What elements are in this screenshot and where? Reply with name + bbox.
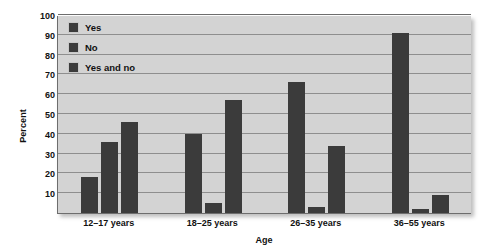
bar xyxy=(101,142,118,213)
bar xyxy=(121,122,138,213)
y-axis-tick-label: 50 xyxy=(31,111,55,120)
y-axis-tick-label: 10 xyxy=(31,190,55,199)
bar xyxy=(432,195,449,213)
y-axis-tick-label: 100 xyxy=(31,12,55,21)
x-axis-tick-label: 26–35 years xyxy=(290,219,341,228)
x-axis-tick-label: 18–25 years xyxy=(187,219,238,228)
bar xyxy=(412,209,429,213)
bar xyxy=(288,82,305,213)
bar xyxy=(392,33,409,213)
legend-label: Yes and no xyxy=(85,63,135,73)
legend-swatch-icon xyxy=(68,62,79,73)
y-axis-tick-labels: 102030405060708090100 xyxy=(31,16,55,214)
bar xyxy=(328,146,345,213)
legend-item: Yes and no xyxy=(68,61,135,74)
legend-label: No xyxy=(85,43,98,53)
x-axis-tick-label: 36–55 years xyxy=(394,219,445,228)
y-axis-tick-label: 60 xyxy=(31,91,55,100)
y-axis-tick-label: 40 xyxy=(31,130,55,139)
bar-group xyxy=(185,16,242,213)
bar-group xyxy=(392,16,449,213)
y-axis-tick-label: 80 xyxy=(31,51,55,60)
plot-area: YesNoYes and no xyxy=(57,16,471,214)
chart-legend: YesNoYes and no xyxy=(68,21,135,74)
legend-item: No xyxy=(68,41,135,54)
y-axis-tick-label: 70 xyxy=(31,71,55,80)
legend-swatch-icon xyxy=(68,42,79,53)
y-axis-tick-label: 20 xyxy=(31,170,55,179)
x-axis-tick-label: 12–17 years xyxy=(83,219,134,228)
bar xyxy=(81,177,98,213)
y-axis-tick-label: 30 xyxy=(31,150,55,159)
bar xyxy=(308,207,325,213)
legend-label: Yes xyxy=(85,23,101,33)
legend-swatch-icon xyxy=(68,22,79,33)
legend-item: Yes xyxy=(68,21,135,34)
bar xyxy=(225,100,242,213)
bar-group xyxy=(288,16,345,213)
bar-chart-figure: Percent 102030405060708090100 YesNoYes a… xyxy=(0,0,484,251)
x-axis-title: Age xyxy=(57,236,471,245)
y-axis-title: Percent xyxy=(19,96,28,156)
bar xyxy=(205,203,222,213)
gridline xyxy=(58,14,471,15)
x-axis-tick-labels: 12–17 years18–25 years26–35 years36–55 y… xyxy=(57,219,471,233)
bar xyxy=(185,134,202,213)
y-axis-tick-label: 90 xyxy=(31,31,55,40)
